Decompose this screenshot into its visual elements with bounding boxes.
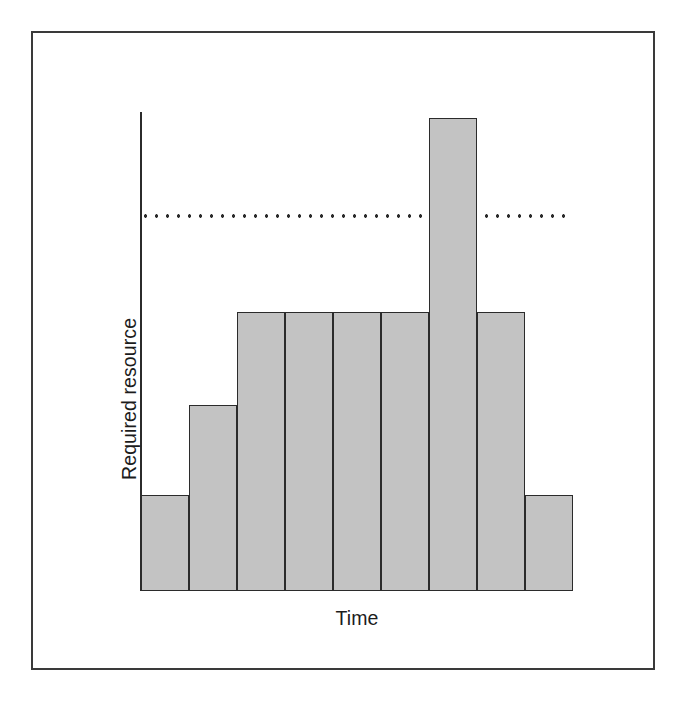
bars-group [0,0,684,702]
figure-root: Required resource Time [0,0,684,702]
x-axis-label: Time [141,607,573,630]
resource-limit-line [140,214,573,218]
bar-period-3 [237,312,285,591]
bar-period-2 [189,405,237,591]
bar-period-9 [525,495,573,591]
plot-area: Required resource Time [0,0,684,702]
bar-period-1 [141,495,189,591]
bar-period-5 [333,312,381,591]
bar-period-6 [381,312,429,591]
bar-period-7 [429,118,477,591]
y-axis-label: Required resource [118,220,141,480]
bar-period-4 [285,312,333,591]
bar-period-8 [477,312,525,591]
